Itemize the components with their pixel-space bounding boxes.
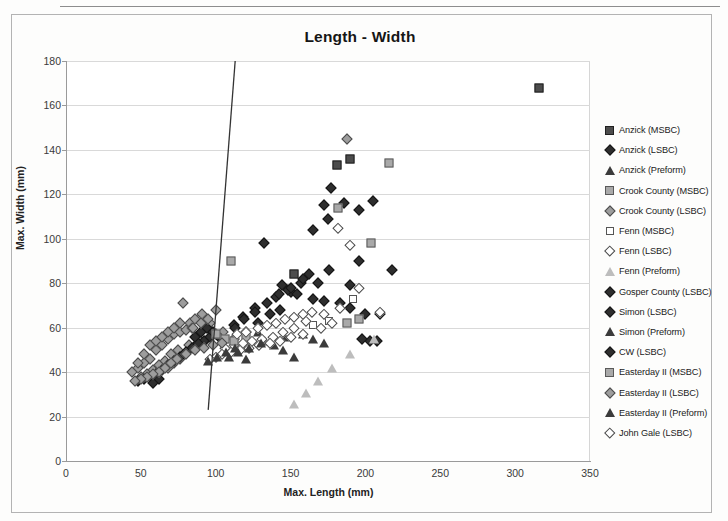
legend-item-label: Fenn (Preform) [619,266,680,276]
data-point [230,343,240,352]
legend-item-label: Anzick (LSBC) [619,145,677,155]
gridline [66,417,590,418]
x-axis-label: Max. Length (mm) [66,486,591,498]
data-point [307,293,318,304]
legend-item[interactable]: CW (LSBC) [603,342,723,362]
legend-item-label: Anzick (Preform) [619,165,686,175]
legend-item-label: Fenn (LSBC) [619,246,672,256]
gridline [66,61,590,62]
x-axis-tick-label: 50 [135,467,147,479]
legend-item[interactable]: Crook County (MSBC) [603,181,723,201]
legend-item[interactable]: Gosper County (LSBC) [603,282,723,302]
page-top-rule [60,6,720,7]
legend-item[interactable]: Fenn (MSBC) [603,221,723,241]
data-point [256,339,266,348]
gridline [66,283,590,284]
data-point [354,204,365,215]
legend-marker-icon [603,386,616,399]
legend-item-label: Gosper County (LSBC) [619,287,711,297]
y-axis-line [66,61,67,462]
legend-item[interactable]: Anzick (Preform) [603,160,723,180]
division-line-annotation [66,61,590,461]
gridline [66,105,590,106]
x-axis-tick-label: 200 [357,467,375,479]
data-point [342,133,353,144]
legend-item-label: CW (LSBC) [619,347,666,357]
y-axis-tick-label: 80 [49,277,61,289]
legend-item[interactable]: Simon (Preform) [603,322,723,342]
legend-item[interactable]: Crook County (LSBC) [603,201,723,221]
legend-marker-icon [603,285,616,298]
legend-item[interactable]: Easterday II (MSBC) [603,362,723,382]
legend-item[interactable]: Easterday II (Preform) [603,403,723,423]
legend-item-label: Easterday II (MSBC) [619,367,701,377]
legend-item-label: Simon (Preform) [619,327,685,337]
data-point [345,302,356,313]
legend-marker-icon [603,225,616,238]
data-point [210,304,221,315]
data-point [369,334,379,343]
legend-item[interactable]: Fenn (LSBC) [603,241,723,261]
data-point [367,239,376,248]
y-axis-tick-label: 140 [43,144,61,156]
data-point [327,363,337,372]
data-point [332,161,341,170]
y-axis-tick-label: 60 [49,322,61,334]
legend-marker-icon [603,305,616,318]
data-point [308,334,318,343]
legend-marker-icon [603,366,616,379]
x-axis-tick-label: 250 [432,467,450,479]
legend-item[interactable]: John Gale (LSBC) [603,423,723,443]
data-point [387,264,398,275]
data-point [324,264,335,275]
y-axis-tick-label: 40 [49,366,61,378]
data-point [289,352,299,361]
data-point [355,314,364,323]
y-axis-tick-label: 20 [49,411,61,423]
x-axis-tick-label: 300 [506,467,524,479]
data-point [289,399,299,408]
y-axis-tick-label: 160 [43,99,61,111]
gridline [66,150,590,151]
chart-legend: Anzick (MSBC)Anzick (LSBC)Anzick (Prefor… [603,120,723,443]
legend-marker-icon [603,406,616,419]
legend-marker-icon [603,426,616,439]
data-point [535,83,544,92]
data-point [325,182,336,193]
x-axis-tick-label: 150 [282,467,300,479]
legend-marker-icon [603,204,616,217]
data-point [261,298,272,309]
legend-item[interactable]: Anzick (LSBC) [603,140,723,160]
legend-marker-icon [603,325,616,338]
data-point [289,270,298,279]
legend-item[interactable]: Simon (LSBC) [603,302,723,322]
legend-marker-icon [603,124,616,137]
legend-item[interactable]: Fenn (Preform) [603,261,723,281]
legend-item[interactable]: Anzick (MSBC) [603,120,723,140]
gridline [66,328,590,329]
data-point [319,339,329,348]
legend-marker-icon [603,184,616,197]
legend-item-label: John Gale (LSBC) [619,428,692,438]
data-point [226,257,235,266]
x-axis-tick-label: 100 [207,467,225,479]
legend-item[interactable]: Easterday II (LSBC) [603,382,723,402]
plot-area: 0204060801001201401601800501001502002503… [66,61,590,461]
data-point [334,203,343,212]
data-point [177,298,188,309]
x-axis-tick-label: 350 [581,467,599,479]
legend-item-label: Fenn (MSBC) [619,226,674,236]
y-axis-tick-label: 120 [43,188,61,200]
legend-marker-icon [603,144,616,157]
legend-marker-icon [603,265,616,278]
data-point [349,295,357,303]
data-point [385,159,394,168]
data-point [211,330,220,339]
plot-right-border [589,61,590,461]
figure-page: Length - Width Max. Width (mm) Max. Leng… [0,0,728,521]
legend-item-label: Crook County (LSBC) [619,206,706,216]
data-point [367,195,378,206]
data-point [322,213,333,224]
data-point [345,240,356,251]
data-point [312,278,323,289]
